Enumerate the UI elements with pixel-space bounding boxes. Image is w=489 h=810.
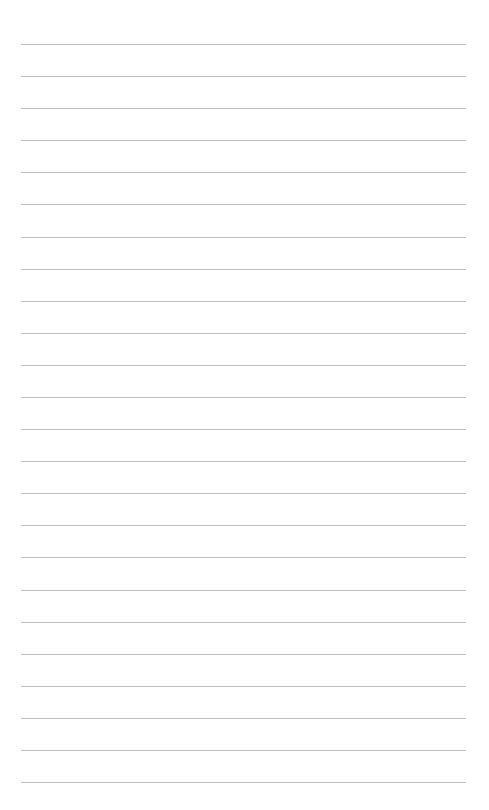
ruled-line <box>21 365 466 366</box>
ruled-line <box>21 686 466 687</box>
ruled-line <box>21 557 466 558</box>
ruled-line <box>21 397 466 398</box>
ruled-line <box>21 461 466 462</box>
ruled-line <box>21 525 466 526</box>
ruled-line <box>21 654 466 655</box>
ruled-line <box>21 44 466 45</box>
ruled-line <box>21 237 466 238</box>
ruled-line <box>21 76 466 77</box>
ruled-line <box>21 301 466 302</box>
ruled-line <box>21 269 466 270</box>
ruled-line <box>21 172 466 173</box>
ruled-line <box>21 750 466 751</box>
ruled-line <box>21 782 466 783</box>
ruled-line <box>21 590 466 591</box>
ruled-line <box>21 718 466 719</box>
ruled-line <box>21 622 466 623</box>
ruled-line <box>21 204 466 205</box>
ruled-line <box>21 108 466 109</box>
ruled-line <box>21 493 466 494</box>
ruled-line <box>21 140 466 141</box>
ruled-line <box>21 429 466 430</box>
ruled-line <box>21 333 466 334</box>
